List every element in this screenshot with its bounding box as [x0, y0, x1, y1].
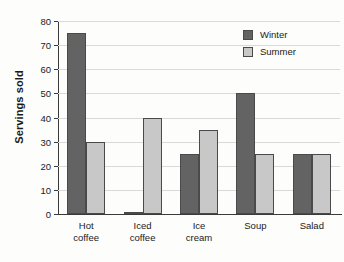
- y-axis-tick-label: 20: [40, 160, 51, 171]
- bar-winter-soup[interactable]: [236, 93, 255, 214]
- legend-item-summer[interactable]: Summer: [243, 43, 296, 60]
- y-axis-tick-mark: [54, 93, 58, 94]
- bar-summer-salad[interactable]: [312, 154, 331, 214]
- bar-winter-salad[interactable]: [293, 154, 312, 214]
- y-axis-tick-label: 30: [40, 136, 51, 147]
- x-axis-label-line: Salad: [284, 220, 340, 232]
- legend-swatch-summer-icon: [243, 47, 253, 57]
- gridline: [58, 45, 340, 46]
- y-axis-tick-mark: [54, 142, 58, 143]
- legend-swatch-winter-icon: [243, 30, 253, 40]
- y-axis-tick-mark: [54, 190, 58, 191]
- y-axis-title: Servings sold: [8, 0, 30, 214]
- y-axis-tick-mark: [54, 118, 58, 119]
- gridline: [58, 93, 340, 94]
- bar-summer-iced-coffee[interactable]: [143, 118, 162, 215]
- y-axis-tick-label: 10: [40, 184, 51, 195]
- x-axis-label-salad: Salad: [284, 220, 340, 232]
- legend-item-winter[interactable]: Winter: [243, 26, 296, 43]
- y-axis-tick-label: 70: [40, 40, 51, 51]
- x-axis-label-line: Soup: [227, 220, 283, 232]
- plot-area: 01020304050607080: [58, 21, 340, 214]
- gridline: [58, 69, 340, 70]
- y-axis-tick-label: 80: [40, 16, 51, 27]
- x-axis-label-line: cream: [171, 232, 227, 244]
- y-axis-title-text: Servings sold: [13, 70, 25, 143]
- x-axis-label-iced-coffee: Icedcoffee: [114, 220, 170, 243]
- y-axis-tick-label: 60: [40, 64, 51, 75]
- chart-legend: Winter Summer: [243, 26, 296, 60]
- x-axis-label-line: Ice: [171, 220, 227, 232]
- bar-summer-ice-cream[interactable]: [199, 130, 218, 214]
- bar-summer-hot-coffee[interactable]: [86, 142, 105, 214]
- y-axis-tick-mark: [54, 21, 58, 22]
- x-axis-label-ice-cream: Icecream: [171, 220, 227, 243]
- y-axis-tick-mark: [54, 69, 58, 70]
- legend-label-summer: Summer: [260, 46, 296, 57]
- x-axis-label-line: Iced: [114, 220, 170, 232]
- x-axis-line: [58, 214, 342, 215]
- y-axis-tick-mark: [54, 45, 58, 46]
- x-axis-label-line: coffee: [58, 232, 114, 244]
- legend-label-winter: Winter: [260, 29, 287, 40]
- y-axis-tick-mark: [54, 214, 58, 215]
- bar-winter-ice-cream[interactable]: [180, 154, 199, 214]
- x-axis-label-line: Hot: [58, 220, 114, 232]
- y-axis-tick-label: 40: [40, 112, 51, 123]
- x-axis-label-soup: Soup: [227, 220, 283, 232]
- x-axis-label-line: coffee: [114, 232, 170, 244]
- y-axis-tick-mark: [54, 166, 58, 167]
- y-axis-tick-label: 50: [40, 88, 51, 99]
- bar-winter-hot-coffee[interactable]: [67, 33, 86, 214]
- y-axis-tick-label: 0: [46, 209, 51, 220]
- bar-summer-soup[interactable]: [255, 154, 274, 214]
- x-axis-label-hot-coffee: Hotcoffee: [58, 220, 114, 243]
- gridline: [58, 118, 340, 119]
- bar-winter-iced-coffee[interactable]: [124, 212, 143, 214]
- gridline: [58, 21, 340, 22]
- bar-chart-figure: Servings sold 01020304050607080 Hotcoffe…: [0, 0, 344, 262]
